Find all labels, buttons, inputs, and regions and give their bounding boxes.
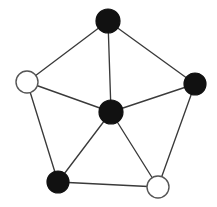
graph-edge-left-top bbox=[27, 21, 108, 82]
graph-edge-bottom-left-left bbox=[27, 82, 58, 182]
graph-vertex-bottom-right bbox=[147, 176, 169, 198]
graph-vertex-bottom-left bbox=[47, 171, 69, 193]
vertex-layer bbox=[16, 9, 206, 198]
graph-edge-center-bottom-left bbox=[58, 112, 111, 182]
graph-edge-bottom-right-bottom-left bbox=[58, 182, 158, 187]
graph-edge-right-bottom-right bbox=[158, 84, 195, 187]
wheel-graph-figure bbox=[0, 0, 217, 207]
graph-vertex-right bbox=[184, 73, 206, 95]
graph-vertex-left bbox=[16, 71, 38, 93]
graph-vertex-center bbox=[99, 100, 123, 124]
graph-edge-center-left bbox=[27, 82, 111, 112]
graph-edge-center-bottom-right bbox=[111, 112, 158, 187]
graph-edge-center-top bbox=[108, 21, 111, 112]
graph-canvas bbox=[0, 0, 217, 207]
graph-vertex-top bbox=[96, 9, 120, 33]
graph-edge-top-right bbox=[108, 21, 195, 84]
graph-edge-center-right bbox=[111, 84, 195, 112]
